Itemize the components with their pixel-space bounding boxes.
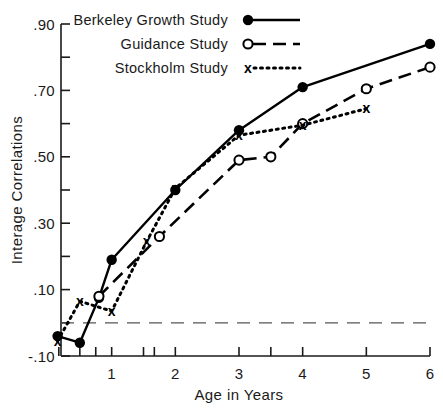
y-axis: .90.70.50.30.10-.10 — [28, 16, 70, 365]
data-point-open-circle — [243, 39, 252, 48]
legend-label: Berkeley Growth Study — [73, 12, 228, 28]
data-point-x-marker: x — [54, 333, 62, 349]
interage-correlations-line-chart: .90.70.50.30.10-.10 123456 xxxxxxxx Berk… — [0, 0, 443, 412]
series-line — [58, 44, 430, 343]
data-point-x-marker: x — [171, 180, 179, 196]
data-point-open-circle — [234, 156, 243, 165]
data-point-x-marker: x — [76, 293, 84, 309]
data-point-x-marker: x — [362, 100, 370, 116]
y-tick-label: .30 — [33, 215, 55, 232]
data-point-open-circle — [266, 152, 275, 161]
chart-figure: .90.70.50.30.10-.10 123456 xxxxxxxx Berk… — [0, 0, 443, 412]
legend-entry: Berkeley Growth Study — [73, 12, 300, 28]
data-point-filled-circle — [106, 255, 116, 265]
data-point-open-circle — [362, 84, 371, 93]
y-tick-label: .50 — [33, 148, 55, 165]
y-tick-label: -.10 — [28, 348, 55, 365]
x-tick-label: 4 — [298, 365, 307, 382]
series-line — [58, 109, 367, 341]
data-series-group: xxxxxxxx — [52, 39, 435, 349]
x-axis: 123456 — [59, 347, 435, 382]
y-tick-label: .90 — [33, 16, 55, 33]
data-point-x-marker: x — [108, 303, 116, 319]
data-point-x-marker: x — [235, 127, 243, 143]
data-point-open-circle — [155, 232, 164, 241]
legend-entry: Guidance Study — [121, 36, 300, 52]
legend-label: Stockholm Study — [115, 60, 229, 76]
y-tick-label: .10 — [33, 281, 55, 298]
x-tick-label: 6 — [426, 365, 435, 382]
data-point-filled-circle — [75, 338, 85, 348]
x-tick-label: 5 — [362, 365, 371, 382]
x-tick-label: 3 — [235, 365, 244, 382]
y-axis-title: Interage Correlations — [8, 116, 25, 264]
series-berkeley-growth-study — [52, 39, 435, 348]
y-tick-label: .70 — [33, 82, 55, 99]
data-point-filled-circle — [243, 15, 253, 25]
data-point-open-circle — [425, 63, 434, 72]
legend-label: Guidance Study — [121, 36, 229, 52]
series-guidance-study — [94, 63, 434, 301]
data-point-x-marker: x — [143, 233, 151, 249]
data-point-filled-circle — [425, 39, 435, 49]
data-point-open-circle — [94, 292, 103, 301]
x-tick-label: 2 — [171, 365, 180, 382]
data-point-x-marker: x — [244, 60, 252, 76]
x-axis-title: Age in Years — [194, 386, 283, 403]
chart-legend: Berkeley Growth StudyGuidance StudyStock… — [73, 12, 300, 76]
data-point-filled-circle — [297, 82, 307, 92]
legend-entry: Stockholm Studyx — [115, 60, 300, 76]
data-point-x-marker: x — [299, 117, 307, 133]
x-tick-label: 1 — [107, 365, 116, 382]
series-stockholm-study: xxxxxxxx — [54, 100, 371, 348]
series-line — [99, 67, 430, 296]
